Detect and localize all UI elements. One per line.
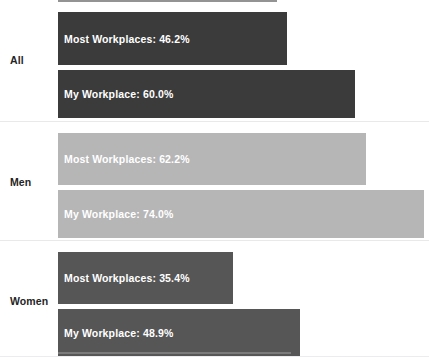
category-label-men: Men [10, 176, 31, 188]
chart-group-all: All Most Workplaces: 46.2% My Workplace:… [0, 0, 429, 122]
grouped-bar-chart: All Most Workplaces: 46.2% My Workplace:… [0, 0, 429, 364]
bar-women-my-workplace[interactable]: My Workplace: 48.9% [58, 309, 300, 357]
bar-value-label: My Workplace: 48.9% [58, 327, 173, 339]
bar-value-label: Most Workplaces: 35.4% [58, 272, 190, 284]
bar-men-most-workplaces[interactable]: Most Workplaces: 62.2% [58, 133, 366, 185]
category-label-women: Women [10, 295, 48, 307]
chart-group-men: Men Most Workplaces: 62.2% My Workplace:… [0, 122, 429, 241]
bar-all-my-workplace[interactable]: My Workplace: 60.0% [58, 70, 355, 118]
bar-value-label: My Workplace: 74.0% [58, 208, 173, 220]
chart-bottom-rule [0, 356, 429, 357]
bar-women-most-workplaces[interactable]: Most Workplaces: 35.4% [58, 252, 233, 304]
category-label-all: All [10, 54, 24, 66]
clipped-bottom-bar-fragment [58, 352, 291, 354]
bar-value-label: My Workplace: 60.0% [58, 88, 173, 100]
bar-value-label: Most Workplaces: 46.2% [58, 33, 190, 45]
bar-all-most-workplaces[interactable]: Most Workplaces: 46.2% [58, 12, 287, 65]
bar-value-label: Most Workplaces: 62.2% [58, 153, 190, 165]
chart-group-women: Women Most Workplaces: 35.4% My Workplac… [0, 241, 429, 364]
bar-men-my-workplace[interactable]: My Workplace: 74.0% [58, 190, 424, 238]
